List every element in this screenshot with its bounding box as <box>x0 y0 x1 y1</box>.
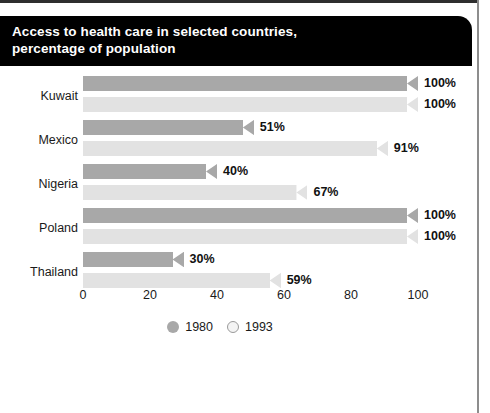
axis-tick-label: 80 <box>344 288 358 302</box>
bar-end-notch-icon <box>407 76 418 91</box>
bar-end-notch-icon <box>173 252 184 267</box>
bar-1993 <box>83 185 307 200</box>
bar-fill <box>83 141 388 156</box>
legend-item[interactable]: 1993 <box>227 320 273 334</box>
value-label: 91% <box>394 141 419 156</box>
bar-end-notch-icon <box>407 97 418 112</box>
bar-1980 <box>83 164 217 179</box>
bar-rows: Kuwait100%100%Mexico51%91%Nigeria40%67%P… <box>0 66 490 296</box>
title-banner: Access to health care in selected countr… <box>0 16 472 66</box>
value-label: 67% <box>313 185 338 200</box>
bar-end-notch-icon <box>407 229 418 244</box>
category-label: Nigeria <box>0 177 78 191</box>
value-label: 100% <box>424 97 456 112</box>
axis-tick-label: 60 <box>277 288 291 302</box>
bar-end-notch-icon <box>243 120 254 135</box>
bar-end-notch-icon <box>407 208 418 223</box>
value-label: 30% <box>190 252 215 267</box>
bar-fill <box>83 97 418 112</box>
value-label: 51% <box>260 120 285 135</box>
value-label: 100% <box>424 76 456 91</box>
bar-1993 <box>83 141 388 156</box>
bar-1980 <box>83 120 254 135</box>
category-label: Mexico <box>0 133 78 147</box>
category-label: Thailand <box>0 265 78 279</box>
top-rule <box>0 0 479 3</box>
bar-end-notch-icon <box>270 273 281 288</box>
legend-label: 1993 <box>245 320 273 334</box>
axis-tick-label: 0 <box>80 288 87 302</box>
bar-1980 <box>83 208 418 223</box>
bar-fill <box>83 76 418 91</box>
bar-fill <box>83 208 418 223</box>
axis-tick-label: 40 <box>210 288 224 302</box>
filled-circle-icon <box>167 321 179 333</box>
value-label: 100% <box>424 208 456 223</box>
axis-tick-label: 100 <box>408 288 429 302</box>
axis-tick-label: 20 <box>143 288 157 302</box>
bar-1993 <box>83 273 281 288</box>
chart-figure: Access to health care in selected countr… <box>0 0 490 413</box>
legend-label: 1980 <box>185 320 213 334</box>
legend-item[interactable]: 1980 <box>167 320 213 334</box>
category-label: Poland <box>0 221 78 235</box>
bar-1993 <box>83 97 418 112</box>
bar-group: Poland100%100% <box>0 208 490 252</box>
bar-group: Mexico51%91% <box>0 120 490 164</box>
bar-group: Nigeria40%67% <box>0 164 490 208</box>
x-axis: 020406080100 <box>0 288 490 308</box>
bar-end-notch-icon <box>296 185 307 200</box>
bar-fill <box>83 120 254 135</box>
category-label: Kuwait <box>0 89 78 103</box>
value-label: 59% <box>287 273 312 288</box>
chart-title: Access to health care in selected countr… <box>12 23 442 57</box>
bar-1993 <box>83 229 418 244</box>
bar-fill <box>83 185 307 200</box>
open-circle-icon <box>227 321 239 333</box>
value-label: 100% <box>424 229 456 244</box>
bar-end-notch-icon <box>206 164 217 179</box>
bar-1980 <box>83 252 184 267</box>
value-label: 40% <box>223 164 248 179</box>
plot-area: Kuwait100%100%Mexico51%91%Nigeria40%67%P… <box>0 66 490 413</box>
bar-fill <box>83 229 418 244</box>
bar-fill <box>83 164 217 179</box>
bar-group: Kuwait100%100% <box>0 76 490 120</box>
bar-fill <box>83 252 184 267</box>
chart-legend: 19801993 <box>0 320 440 334</box>
bar-fill <box>83 273 281 288</box>
bar-1980 <box>83 76 418 91</box>
bar-end-notch-icon <box>377 141 388 156</box>
